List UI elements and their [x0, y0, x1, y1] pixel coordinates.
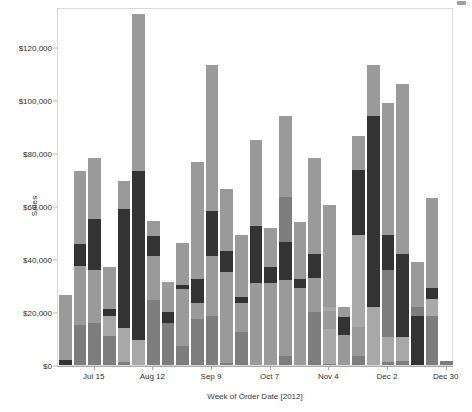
bar-segment[interactable] [162, 323, 174, 365]
bar-segment[interactable] [250, 283, 262, 365]
bar-segment[interactable] [176, 346, 188, 365]
bar[interactable] [59, 295, 71, 365]
bar-segment[interactable] [103, 316, 115, 336]
bar-segment[interactable] [235, 303, 247, 332]
bar-segment[interactable] [352, 356, 364, 365]
bar[interactable] [264, 228, 276, 365]
bar-segment[interactable] [74, 171, 86, 244]
bar[interactable] [279, 116, 291, 365]
bar-segment[interactable] [191, 162, 203, 279]
bar-segment[interactable] [88, 219, 100, 269]
bar-segment[interactable] [264, 283, 276, 365]
bar[interactable] [308, 158, 320, 365]
bar-segment[interactable] [279, 197, 291, 242]
bar-segment[interactable] [235, 332, 247, 365]
bar-segment[interactable] [352, 136, 364, 170]
bar-segment[interactable] [264, 267, 276, 283]
bar-segment[interactable] [308, 158, 320, 253]
bar-segment[interactable] [103, 309, 115, 316]
bar-segment[interactable] [279, 116, 291, 197]
bar-segment[interactable] [426, 316, 438, 365]
bar[interactable] [382, 102, 394, 365]
bar[interactable] [367, 65, 379, 365]
bar-segment[interactable] [147, 256, 159, 300]
bar-segment[interactable] [323, 364, 335, 365]
bar-segment[interactable] [132, 171, 144, 339]
bar-segment[interactable] [294, 222, 306, 279]
bar-segment[interactable] [323, 311, 335, 330]
bar-segment[interactable] [426, 299, 438, 316]
bar-segment[interactable] [338, 307, 350, 318]
bar[interactable] [426, 198, 438, 365]
bar-segment[interactable] [308, 312, 320, 365]
bar-segment[interactable] [206, 316, 218, 365]
bar-segment[interactable] [74, 244, 86, 265]
bar-segment[interactable] [191, 319, 203, 365]
bar[interactable] [88, 158, 100, 365]
bar[interactable] [191, 162, 203, 365]
bar-segment[interactable] [59, 360, 71, 365]
bar-segment[interactable] [426, 198, 438, 288]
bar-segment[interactable] [132, 340, 144, 365]
bar-segment[interactable] [103, 267, 115, 309]
bar-segment[interactable] [74, 266, 86, 326]
bar-segment[interactable] [382, 337, 394, 362]
bar-segment[interactable] [411, 262, 423, 307]
bar-segment[interactable] [279, 242, 291, 280]
bar-segment[interactable] [88, 270, 100, 323]
bar[interactable] [118, 181, 130, 365]
bar-segment[interactable] [206, 211, 218, 256]
bar-segment[interactable] [206, 256, 218, 316]
bar-segment[interactable] [367, 116, 379, 307]
bar-segment[interactable] [308, 254, 320, 278]
bar-segment[interactable] [206, 65, 218, 211]
bar-segment[interactable] [382, 235, 394, 269]
bar[interactable] [338, 307, 350, 365]
bar[interactable] [132, 14, 144, 365]
bar-segment[interactable] [59, 295, 71, 360]
bar-segment[interactable] [323, 205, 335, 307]
bar-segment[interactable] [162, 312, 174, 323]
bar-segment[interactable] [74, 325, 86, 365]
bar-segment[interactable] [220, 251, 232, 272]
bar-segment[interactable] [88, 323, 100, 365]
bar[interactable] [103, 267, 115, 365]
bar-segment[interactable] [352, 235, 364, 326]
bar-segment[interactable] [220, 363, 232, 365]
bar-segment[interactable] [279, 280, 291, 356]
bar-segment[interactable] [294, 279, 306, 288]
bar-segment[interactable] [176, 243, 188, 285]
bar-segment[interactable] [162, 282, 174, 312]
bar-segment[interactable] [118, 328, 130, 362]
bar-segment[interactable] [367, 307, 379, 365]
bar-segment[interactable] [352, 327, 364, 356]
bar[interactable] [323, 205, 335, 365]
bar-segment[interactable] [411, 307, 423, 316]
bar-segment[interactable] [264, 228, 276, 266]
bar-segment[interactable] [396, 84, 408, 254]
bar[interactable] [294, 222, 306, 365]
bar-segment[interactable] [338, 317, 350, 334]
bar-segment[interactable] [382, 103, 394, 236]
bar-segment[interactable] [147, 236, 159, 256]
bar-segment[interactable] [118, 181, 130, 209]
bar-segment[interactable] [118, 209, 130, 328]
bar[interactable] [352, 136, 364, 365]
bar-segment[interactable] [396, 337, 408, 361]
bar[interactable] [250, 140, 262, 365]
bar-segment[interactable] [279, 356, 291, 365]
bar-segment[interactable] [323, 329, 335, 363]
bar-segment[interactable] [426, 288, 438, 299]
bar[interactable] [220, 189, 232, 365]
bar-segment[interactable] [191, 279, 203, 303]
bar-segment[interactable] [235, 235, 247, 297]
bar-segment[interactable] [103, 336, 115, 365]
bar-segment[interactable] [220, 189, 232, 251]
bar[interactable] [176, 243, 188, 365]
bar-segment[interactable] [147, 221, 159, 237]
bar[interactable] [147, 220, 159, 365]
bar-segment[interactable] [352, 170, 364, 235]
bar-segment[interactable] [88, 158, 100, 219]
bar[interactable] [235, 235, 247, 365]
bar-segment[interactable] [220, 272, 232, 363]
